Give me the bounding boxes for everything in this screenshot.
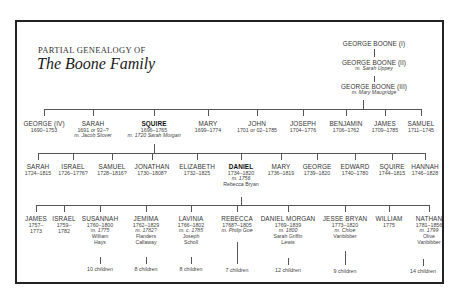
connector-line [237,242,238,264]
person-dates: 1732–1825 [179,170,215,176]
person-dates: 1706–1762 [329,127,362,133]
connector-line [197,153,198,160]
children-count-jesse-bryan: 9 children [334,268,357,274]
person-dates: 1728–1816? [97,170,126,176]
person-george-iv: GEORGE (IV) 1690–1753 [23,120,64,133]
sibling-bar-gen2 [38,153,425,154]
person-name: DANIEL [223,163,258,170]
connector-line [191,205,192,212]
person-name: JONATHAN [135,163,170,170]
person-name: ISRAEL [58,163,87,170]
person-spouse-surname: Scholl [178,240,205,246]
person-name: SAMUEL [97,163,126,170]
person-daniel-morgan: DANIEL MORGAN 1769–1839 m. 1800 Sarah Gr… [261,215,316,246]
connector-line [392,153,393,160]
connector-line [317,153,318,160]
connector-line [374,49,375,57]
person-mary-gen2: MARY 1736–1819 [268,163,295,176]
person-name: SQUIRE [379,163,406,170]
connector-line [363,100,364,109]
person-dates: 1711–1745 [408,127,435,133]
connector-line [112,153,113,160]
person-spouse: Rebecca Bryan [223,182,258,188]
person-susannah: SUSANNAH 1760–1800 m. 1775 William Hays [82,215,118,246]
connector-line [421,109,422,116]
connector-line [355,153,356,160]
person-name: GEORGE BOONE (I) [343,40,405,47]
person-name: SARAH [25,163,52,170]
connector-line [288,205,289,212]
person-name: REBECCA [221,215,253,222]
person-spouse: m. 1720 Sarah Morgan [127,133,180,139]
connector-line [241,153,242,160]
connector-line [36,205,37,212]
person-dates: 1740–1780 [341,170,370,176]
person-hannah: HANNAH 1746–1828 [411,163,439,176]
connector-line [345,205,346,212]
person-name: ISRAEL [52,215,75,222]
person-dates: 1704–1776 [290,127,317,133]
person-spouse: m. Sarah Uppey [342,66,406,72]
person-name: SARAH [74,120,111,127]
children-count-daniel-morgan: 12 children [275,267,301,273]
person-name: JEMIMA [133,215,160,222]
person-israel-gen2: ISRAEL 1726–1776? [58,163,87,176]
ancestor-george-i: GEORGE BOONE (I) [343,40,405,47]
person-joseph: JOSEPH 1704–1776 [290,120,317,133]
person-name: JOHN [237,120,277,127]
connector-line [191,257,192,264]
connector-line [100,257,101,264]
connector-line [288,258,289,265]
children-count: 10 children [87,266,113,272]
person-squire-gen1: SQUIRE 1696–1765 m. 1720 Sarah Morgan [127,120,180,139]
person-name: WILLIAM [376,215,403,222]
connector-line [237,205,238,212]
children-count: 14 children [410,268,436,274]
person-name: LAVINIA [178,215,205,222]
person-dates: 1744–1815 [379,170,406,176]
person-edward: EDWARD 1740–1780 [341,163,370,176]
connector-line [241,197,242,205]
person-dates: 1739–1820 [303,170,332,176]
connector-line [152,153,153,160]
person-dates: 1701 or 02–1785 [237,127,277,133]
person-benjamin: BENJAMIN 1706–1762 [329,120,362,133]
person-name: JAMES [372,120,399,127]
connector-line [374,76,375,82]
person-james-gen3: JAMES 1757– 1773 [25,215,47,235]
person-name: GEORGE (IV) [23,120,64,127]
person-william: WILLIAM 1775 [376,215,403,228]
person-name: NATHAN [416,215,443,222]
person-dates: 1775 [376,222,403,228]
children-count-rebecca: 7 children [226,267,249,273]
person-name: DANIEL MORGAN [261,215,316,222]
connector-line [154,109,155,116]
person-elizabeth: ELIZABETH 1732–1825 [179,163,215,176]
connector-line [389,205,390,212]
connector-line [154,144,155,153]
connector-line [38,153,39,160]
person-spouse-surname: Vanbibber [323,234,368,240]
person-dates: 1746–1828 [411,170,439,176]
person-spouse-surname: Lewis [261,240,316,246]
person-mary-gen1: MARY 1699–1774 [195,120,222,133]
connector-line [385,109,386,116]
person-sarah-gen1: SARAH 1691 or 92–? m. Jacob Stover [74,120,111,139]
person-dates: 1736–1819 [268,170,295,176]
person-name: JAMES [25,215,47,222]
person-dates-end: 1773 [25,228,47,234]
person-lavinia: LAVINIA 1766–1802 m. c. 1785 Joseph Scho… [178,215,205,246]
children-count-nathan: 14 children [410,268,436,274]
person-dates: 1730–1808? [135,170,170,176]
person-nathan: NATHAN 1781–1856 m. 1799 Olive Vanbibber [416,215,443,246]
person-spouse-surname: Callaway [133,240,160,246]
person-name: HANNAH [411,163,439,170]
person-sarah-gen2: SARAH 1724–1815 [25,163,52,176]
children-count: 7 children [226,267,249,273]
person-dates: 1709–1785 [372,127,399,133]
person-israel-gen3: ISRAEL 1759– 1782 [52,215,75,235]
connector-line [429,205,430,212]
sibling-bar-gen1 [44,109,421,110]
connector-line [44,109,45,116]
children-count: 12 children [275,267,301,273]
